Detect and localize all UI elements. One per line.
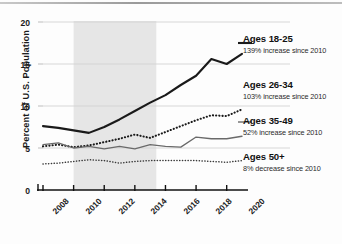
y-axis-label: Percent of U.S. Population <box>21 19 31 159</box>
legend-sub-ages-18-25: 139% increase since 2010 <box>243 46 326 55</box>
y-tick-0: 0 <box>8 186 30 196</box>
legend-title-ages-35-49: Ages 35-49 <box>243 115 293 126</box>
chart-figure: Percent of U.S. Population 20 15 10 5 0 … <box>0 0 342 244</box>
legend-title-ages-50-plus: Ages 50+ <box>243 151 285 162</box>
y-tick-10: 10 <box>8 102 30 112</box>
legend-title-ages-26-34: Ages 26-34 <box>243 79 293 90</box>
y-tick-20: 20 <box>8 18 30 28</box>
y-tick-15: 15 <box>8 60 30 70</box>
legend-sub-ages-35-49: 52% increase since 2010 <box>243 128 322 137</box>
legend-sub-ages-26-34: 103% increase since 2010 <box>243 92 326 101</box>
legend-title-ages-18-25: Ages 18-25 <box>243 33 293 44</box>
legend-sub-ages-50-plus: 8% decrease since 2010 <box>243 164 321 173</box>
y-tick-5: 5 <box>8 144 30 154</box>
